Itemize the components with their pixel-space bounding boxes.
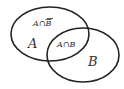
b-complement: B bbox=[44, 19, 51, 28]
set-a-label: A bbox=[27, 36, 37, 51]
set-b-ellipse bbox=[47, 28, 119, 82]
set-a-ellipse bbox=[11, 7, 89, 61]
venn-diagram: A∩B A A∩B B bbox=[0, 0, 124, 89]
set-b-label: B bbox=[87, 54, 98, 69]
intersection-label: A∩B bbox=[56, 40, 75, 49]
region-a-not-b-label: A∩B bbox=[32, 19, 51, 28]
